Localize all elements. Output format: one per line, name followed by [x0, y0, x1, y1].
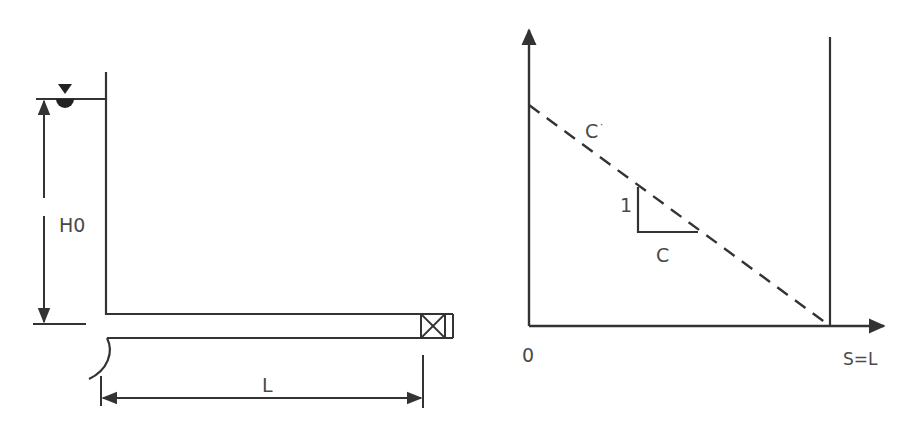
x-end-label: S=L: [843, 349, 878, 369]
length-label: L: [262, 374, 273, 396]
concentration-plot: C · 1 C 0 S=L: [522, 30, 884, 369]
pipe-inlet-curve: [89, 338, 110, 379]
c-dashed-line: [529, 105, 830, 326]
slope-triangle: [638, 187, 698, 232]
figure-canvas: H0 L C · 1 C: [0, 0, 913, 426]
valve-box-icon: [421, 314, 453, 338]
c-line-label: C: [585, 120, 598, 142]
water-level-triangle-icon: [56, 84, 74, 108]
figure-svg: H0 L C · 1 C: [0, 0, 913, 426]
origin-label: 0: [522, 344, 534, 366]
c-line-label-superscript: ·: [600, 119, 603, 130]
slope-rise-label: 1: [620, 194, 632, 216]
slope-run-label: C: [656, 244, 669, 266]
head-label: H0: [59, 214, 85, 236]
reservoir-pipe-diagram: H0 L: [33, 72, 453, 408]
